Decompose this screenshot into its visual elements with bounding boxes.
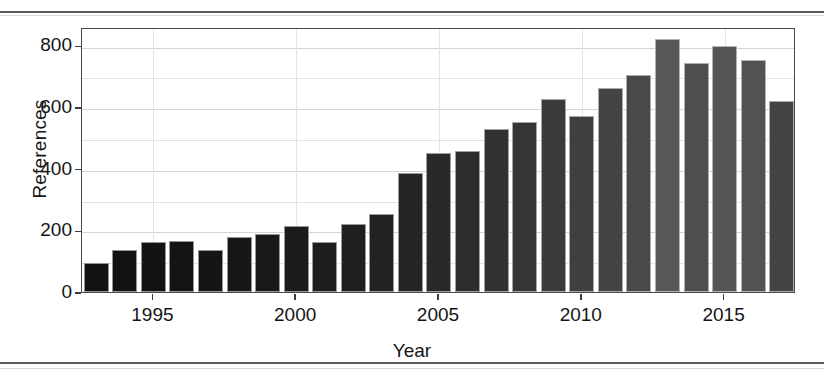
y-axis-tick-label: 400 (0, 158, 72, 180)
bar-1998 (227, 237, 252, 293)
bar-1997 (198, 250, 223, 293)
plot-panel (81, 28, 795, 293)
y-axis-title: References (29, 69, 51, 229)
bar-1999 (255, 234, 280, 293)
x-axis-tick (723, 294, 725, 300)
bar-2008 (512, 122, 537, 292)
bar-2009 (541, 99, 566, 292)
bar-2010 (569, 116, 594, 292)
bar-2000 (284, 226, 309, 292)
x-axis-tick-label: 2000 (250, 304, 340, 326)
bar-2015 (712, 46, 737, 293)
x-axis-tick-label: 2010 (536, 304, 626, 326)
bar-2017 (769, 101, 794, 292)
bar-1993 (84, 263, 109, 292)
bar-series (82, 29, 794, 292)
bar-2016 (741, 60, 766, 292)
bar-2001 (312, 242, 337, 292)
bar-2003 (369, 214, 394, 292)
y-axis-tick-label: 200 (0, 219, 72, 241)
x-axis-tick (437, 294, 439, 300)
bar-chart-figure: References Year 0200400600800 1995200020… (0, 16, 824, 361)
page-rule-bottom-faint (0, 368, 824, 369)
bar-2004 (398, 173, 423, 292)
bar-2007 (484, 129, 509, 292)
x-axis-tick-label: 2005 (393, 304, 483, 326)
x-axis-tick (152, 294, 154, 300)
y-axis-tick-label: 800 (0, 34, 72, 56)
bar-2012 (626, 75, 651, 292)
bar-2014 (684, 63, 709, 292)
page-rule-top (0, 11, 824, 13)
x-axis-tick (294, 294, 296, 300)
y-axis-tick-label: 600 (0, 96, 72, 118)
x-axis-title: Year (0, 340, 824, 362)
bar-2002 (341, 224, 366, 292)
x-axis-tick-label: 1995 (107, 304, 197, 326)
bar-2011 (598, 88, 623, 292)
bar-1996 (169, 241, 194, 292)
bar-1994 (112, 250, 137, 292)
x-axis-tick-label: 2015 (679, 304, 769, 326)
y-axis-tick-label: 0 (0, 281, 72, 303)
bar-2013 (655, 39, 680, 292)
bar-1995 (141, 242, 166, 292)
bar-2006 (455, 151, 480, 292)
bar-2005 (426, 153, 451, 292)
x-axis-tick (580, 294, 582, 300)
page-rule-bottom (0, 362, 824, 364)
